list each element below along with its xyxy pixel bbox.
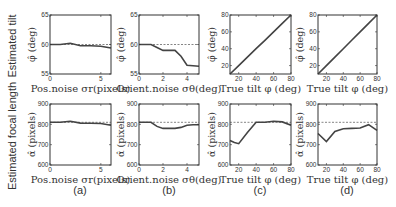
y-tick-label: 700: [306, 141, 317, 148]
y-tick-label: 60: [130, 41, 138, 48]
plot-c-bottom: 20406080600700800900True tilt φ (deg)α̂ …: [206, 100, 301, 185]
x-tick-label: 2: [161, 166, 165, 173]
x-tick-label: 20: [323, 75, 331, 82]
series-line: [50, 43, 111, 48]
y-axis-label: α̂ (pixels): [115, 112, 126, 157]
y-tick-label: 800: [127, 121, 138, 128]
y-axis-label: φ̂ (deg): [294, 27, 305, 62]
y-tick-label: 80: [309, 11, 317, 18]
x-axis-label: True tilt φ (deg): [307, 83, 388, 94]
y-tick-label: 800: [218, 121, 229, 128]
x-tick-label: 80: [287, 75, 295, 82]
y-tick-label: 60: [41, 41, 49, 48]
x-axis-label: Pos.noise σr(pixels): [31, 83, 131, 94]
x-tick-label: 0: [137, 75, 141, 82]
plot-d-top: 2040608020406080True tilt φ (deg)φ̂ (deg…: [294, 11, 388, 94]
series-line: [139, 122, 199, 128]
y-axis-label: φ̂ (deg): [26, 27, 37, 62]
x-tick-label: 40: [340, 75, 348, 82]
x-tick-label: 80: [373, 75, 381, 82]
axes-box: [139, 104, 199, 165]
y-tick-label: 900: [38, 100, 49, 107]
panel-letter-d: (d): [340, 184, 353, 196]
series-line: [318, 125, 377, 142]
y-tick-label: 55: [41, 70, 49, 77]
y-tick-label: 900: [218, 100, 229, 107]
x-tick-label: 40: [340, 166, 348, 173]
y-tick-label: 700: [38, 141, 49, 148]
x-tick-label: 20: [323, 166, 331, 173]
plot-d-bottom: 20406080600700800900True tilt φ (deg)α̂ …: [294, 100, 388, 185]
y-axis-label: φ̂ (deg): [115, 27, 126, 62]
y-tick-label: 600: [127, 161, 138, 168]
y-tick-label: 60: [221, 28, 229, 35]
x-tick-label: 20: [235, 75, 243, 82]
y-tick-label: 60: [309, 28, 317, 35]
figure: Estimated tilt Estimated focal length 05…: [0, 0, 396, 207]
axes-box: [230, 104, 291, 165]
series-line: [230, 15, 291, 74]
panel-letter-a: (a): [73, 184, 86, 196]
series-line: [50, 121, 111, 125]
y-tick-label: 40: [309, 45, 317, 52]
y-tick-label: 600: [306, 161, 317, 168]
x-axis-label: True tilt φ (deg): [220, 83, 301, 94]
series-line: [139, 45, 199, 67]
axes-box: [50, 104, 111, 165]
x-tick-label: 0: [48, 166, 52, 173]
x-tick-label: 60: [270, 75, 278, 82]
x-tick-label: 4: [185, 166, 189, 173]
y-tick-label: 900: [306, 100, 317, 107]
panel-letter-c: (c): [254, 184, 267, 196]
y-tick-label: 65: [130, 11, 138, 18]
y-axis-label: φ̂ (deg): [206, 27, 217, 62]
x-tick-label: 5: [99, 166, 103, 173]
series-line: [230, 121, 291, 143]
y-tick-label: 40: [221, 45, 229, 52]
x-tick-label: 4: [185, 75, 189, 82]
axes-box: [318, 104, 377, 165]
x-tick-label: 2: [161, 75, 165, 82]
y-tick-label: 800: [38, 121, 49, 128]
panels-group: 05556065Pos.noise σr(pixels)φ̂ (deg)0245…: [26, 11, 388, 185]
row-label-tilt: Estimated tilt: [6, 15, 18, 78]
y-tick-label: 700: [127, 141, 138, 148]
y-axis-label: α̂ (pixels): [206, 112, 217, 157]
y-tick-label: 55: [130, 70, 138, 77]
y-tick-label: 20: [309, 62, 317, 69]
x-tick-label: 20: [235, 166, 243, 173]
x-axis-label: Orient.noise σθ(deg): [117, 83, 222, 94]
x-tick-label: 40: [253, 75, 261, 82]
y-axis-label: α̂ (pixels): [294, 112, 305, 157]
x-tick-label: 0: [48, 75, 52, 82]
x-tick-label: 40: [253, 166, 261, 173]
x-tick-label: 60: [270, 166, 278, 173]
y-tick-label: 900: [127, 100, 138, 107]
x-tick-label: 80: [373, 166, 381, 173]
y-tick-label: 600: [218, 161, 229, 168]
y-tick-label: 700: [218, 141, 229, 148]
x-tick-label: 0: [137, 166, 141, 173]
x-tick-label: 5: [99, 75, 103, 82]
series-line: [318, 15, 377, 74]
panel-letter-b: (b): [162, 184, 175, 196]
y-axis-label: α̂ (pixels): [26, 112, 37, 157]
x-tick-label: 60: [357, 75, 365, 82]
y-tick-label: 80: [221, 11, 229, 18]
x-tick-label: 80: [287, 166, 295, 173]
y-tick-label: 600: [38, 161, 49, 168]
x-tick-label: 60: [357, 166, 365, 173]
y-tick-label: 65: [41, 11, 49, 18]
y-tick-label: 20: [221, 62, 229, 69]
plot-c-top: 2040608020406080True tilt φ (deg)φ̂ (deg…: [206, 11, 301, 94]
y-tick-label: 800: [306, 121, 317, 128]
row-label-focal-length: Estimated focal length: [6, 82, 18, 190]
